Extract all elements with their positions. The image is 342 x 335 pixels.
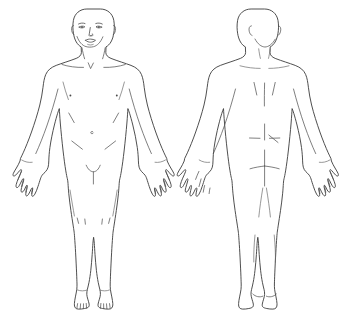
body-diagram-root bbox=[0, 0, 342, 335]
front-left-pupil bbox=[81, 26, 83, 28]
front-right-nipple bbox=[116, 95, 118, 97]
body-diagram-canvas bbox=[0, 0, 342, 335]
front-right-pupil bbox=[98, 26, 100, 28]
front-left-nipple bbox=[69, 95, 71, 97]
